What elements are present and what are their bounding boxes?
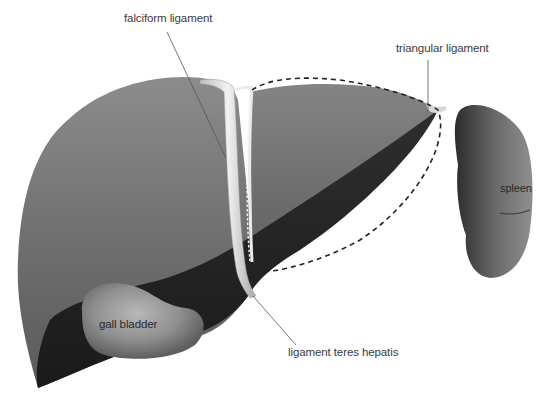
teres-leader-line — [253, 296, 296, 345]
diagram-svg — [0, 0, 546, 403]
spleen-label: spleen — [500, 182, 532, 194]
liver-diagram: falciform ligament triangular ligament s… — [0, 0, 546, 403]
ligament-teres-hepatis-label: ligament teres hepatis — [288, 346, 398, 358]
falciform-ligament-label: falciform ligament — [124, 12, 212, 24]
gall-bladder-label: gall bladder — [99, 318, 157, 330]
triangular-ligament-label: triangular ligament — [396, 42, 489, 54]
